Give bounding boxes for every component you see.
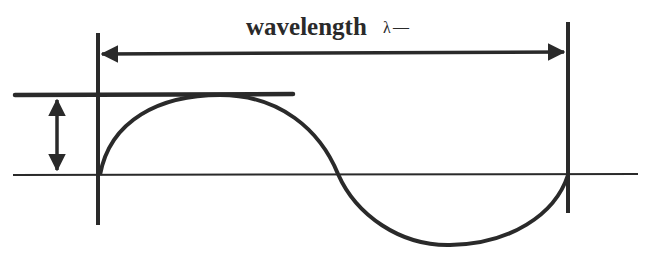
baseline [13, 174, 638, 175]
wavelength-double-arrow [102, 52, 564, 54]
wavelength-symbol: λ [383, 19, 391, 36]
wavelength-trailing-dash: — [392, 18, 410, 35]
sine-wave [100, 95, 568, 245]
wavelength-label: wavelength [246, 13, 367, 40]
wave-diagram: wavelength λ — [0, 0, 658, 260]
crest-reference-line [15, 94, 293, 95]
